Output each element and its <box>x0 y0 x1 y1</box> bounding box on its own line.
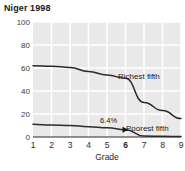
series-label-poorest-fifth: Poorest fifth <box>126 124 169 133</box>
chart-container: Niger 1998 020406080100 123456789 Grade … <box>0 0 185 171</box>
series-label-richest-fifth: Richest fifth <box>118 72 160 81</box>
series-lines-layer <box>0 0 185 171</box>
data-point-value-annotation: 6.4% <box>100 116 117 125</box>
